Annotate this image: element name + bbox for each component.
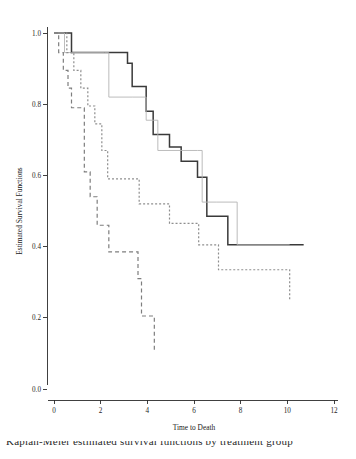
x-axis-title: Time to Death xyxy=(173,423,216,432)
axes-layer xyxy=(43,27,338,404)
y-tick-label: 0.6 xyxy=(32,172,41,180)
y-tick-label: 0.8 xyxy=(32,101,41,109)
y-tick-label: 0.0 xyxy=(32,386,41,394)
survival-plot: 0.00.20.40.60.81.0024681012Time to Death… xyxy=(0,0,356,459)
curve-group-3-short-dash xyxy=(54,33,290,300)
survival-figure: 0.00.20.40.60.81.0024681012Time to Death… xyxy=(0,0,356,459)
curve-group-2-thin-gray xyxy=(54,33,290,245)
x-tick-label: 8 xyxy=(239,407,243,415)
x-tick-label: 6 xyxy=(192,407,196,415)
y-axis-title: Estimated Survival Functions xyxy=(15,167,24,255)
curves-layer xyxy=(54,33,304,350)
figure-caption: Kaplan-Meier estimated survival function… xyxy=(0,441,356,459)
curve-group-1-solid xyxy=(54,33,304,245)
x-tick-label: 0 xyxy=(52,407,56,415)
y-tick-label: 0.2 xyxy=(32,314,41,322)
y-tick-label: 0.4 xyxy=(32,243,41,251)
curve-group-4-long-dash xyxy=(54,33,154,350)
y-tick-label: 1.0 xyxy=(32,30,41,38)
x-tick-label: 12 xyxy=(330,407,338,415)
x-tick-label: 10 xyxy=(284,407,292,415)
x-tick-label: 4 xyxy=(146,407,150,415)
figure-caption-text: Kaplan-Meier estimated survival function… xyxy=(6,441,293,447)
x-tick-label: 2 xyxy=(99,407,103,415)
axis-labels-layer: 0.00.20.40.60.81.0024681012Time to Death… xyxy=(15,30,338,432)
